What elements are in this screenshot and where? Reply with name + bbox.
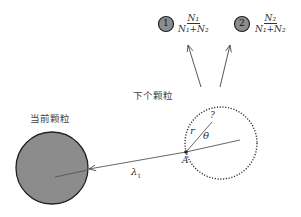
- next-particle-label: 下个颗粒: [133, 88, 173, 102]
- radius-label: r: [190, 125, 195, 136]
- outcome-2-denominator: N₁+N₂: [255, 24, 286, 34]
- point-a-label: A: [182, 155, 189, 165]
- arrow-to-outcome-1: [188, 45, 201, 87]
- outcome-1-denominator: N₁+N₂: [178, 24, 209, 34]
- outcome-2-numerator: N₂: [264, 13, 277, 24]
- outcome-2-probability: N₂ N₁+N₂: [255, 13, 286, 34]
- arrow-to-outcome-2: [220, 45, 230, 87]
- current-particle-circle: [16, 132, 88, 204]
- unknown-label: ?: [210, 110, 215, 120]
- lambda-subscript: 1: [137, 172, 141, 179]
- angle-label: θ: [203, 130, 209, 141]
- current-particle-label: 当前颗粒: [30, 111, 70, 125]
- outcome-1-id: 1: [163, 18, 169, 28]
- next-particle-circle: [185, 107, 257, 179]
- point-a-dot: [184, 150, 188, 154]
- lambda-label: λ1: [131, 166, 141, 179]
- outcome-1-numerator: N₁: [187, 13, 200, 24]
- particle-transport-diagram: 1 N₁ N₁+N₂ 2 N₂ N₁+N₂ 下个颗粒 当前颗粒 ? r θ A …: [0, 0, 301, 217]
- outcome-2-id: 2: [239, 18, 245, 28]
- direction-line: [186, 140, 240, 152]
- outcome-1-probability: N₁ N₁+N₂: [178, 13, 209, 34]
